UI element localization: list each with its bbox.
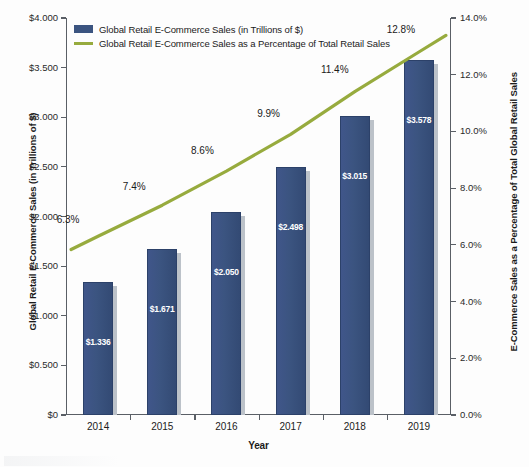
legend-item-bars: Global Retail E-Commerce Sales (in Trill… [74,22,390,36]
bar-value-label: $2.498 [261,222,321,232]
right-tick-label: 8.0% [460,182,520,193]
legend-label-line: Global Retail E-Commerce Sales as a Perc… [99,38,390,49]
right-tick-label: 4.0% [460,296,520,307]
right-tick-mark [451,358,456,359]
right-tick-label: 2.0% [460,352,520,363]
bar-value-label: $3.015 [325,171,385,181]
bar[interactable] [276,167,306,415]
left-tick-label: $0.500 [0,359,58,370]
bar-shadow [370,120,374,415]
right-tick-mark [451,131,456,132]
right-tick-mark [451,244,456,245]
right-tick-mark [451,414,456,415]
legend-item-line: Global Retail E-Commerce Sales as a Perc… [74,36,390,50]
x-tick-label: 2017 [259,421,323,432]
right-tick-label: 0.0% [460,409,520,420]
line-swatch-icon [74,42,93,45]
bar-shadow [306,171,310,415]
x-tick-mark [259,415,260,420]
left-tick-label: $2.500 [0,161,58,172]
bar[interactable] [404,60,434,415]
right-tick-mark [451,17,456,18]
plot-area [66,18,451,415]
legend-label-bars: Global Retail E-Commerce Sales (in Trill… [99,24,303,35]
x-tick-mark [194,415,195,420]
left-tick-label: $0 [0,409,58,420]
bar-value-label: $1.336 [68,337,128,347]
bar-swatch-icon [74,25,93,33]
bar-shadow [241,216,245,415]
left-tick-label: $3.000 [0,111,58,122]
bar[interactable] [147,249,177,415]
bar[interactable] [83,282,113,415]
right-tick-label: 12.0% [460,69,520,80]
x-tick-mark [387,415,388,420]
bar[interactable] [340,116,370,415]
x-tick-label: 2019 [387,421,451,432]
x-tick-label: 2014 [66,421,130,432]
left-tick-label: $1.000 [0,310,58,321]
bar-value-label: $2.050 [196,267,256,277]
bar-value-label: $3.578 [389,115,449,125]
percentage-label: 11.4% [312,64,358,75]
percentage-label: 9.9% [246,108,292,119]
right-tick-mark [451,74,456,75]
percentage-label: 7.4% [111,181,157,192]
x-axis-title: Year [66,440,451,451]
scan-artifact [4,456,124,466]
right-tick-label: 10.0% [460,125,520,136]
bar-value-label: $1.671 [132,304,192,314]
right-tick-mark [451,188,456,189]
right-tick-mark [451,301,456,302]
left-tick-label: $4.000 [0,12,58,23]
bar-shadow [113,286,117,415]
percentage-label: 6.3% [45,214,91,225]
x-tick-mark [323,415,324,420]
chart-figure: Global Retail E-Commerce Sales (in Trill… [0,0,529,467]
x-tick-label: 2015 [130,421,194,432]
bar[interactable] [211,212,241,415]
x-tick-label: 2016 [194,421,258,432]
percentage-label: 8.6% [179,145,225,156]
chart-legend: Global Retail E-Commerce Sales (in Trill… [74,22,390,50]
right-tick-label: 6.0% [460,239,520,250]
left-tick-label: $1.500 [0,260,58,271]
x-tick-label: 2018 [323,421,387,432]
x-tick-mark [130,415,131,420]
bar-shadow [177,253,181,415]
right-tick-label: 14.0% [460,12,520,23]
left-tick-label: $3.500 [0,62,58,73]
